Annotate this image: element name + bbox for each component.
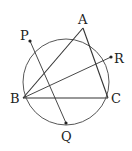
segment-ab: [23, 28, 83, 98]
label-c: C: [111, 91, 121, 106]
label-r: R: [114, 51, 125, 66]
point-r-dot: [109, 55, 112, 58]
label-q: Q: [61, 129, 72, 144]
geometry-diagram: A B C P Q R: [0, 0, 132, 151]
circumcircle: [23, 39, 109, 125]
point-q-dot: [64, 121, 67, 124]
label-b: B: [10, 91, 20, 106]
label-a: A: [77, 12, 88, 27]
segment-br: [23, 57, 111, 98]
point-p-dot: [28, 39, 31, 42]
label-p: P: [20, 28, 29, 43]
